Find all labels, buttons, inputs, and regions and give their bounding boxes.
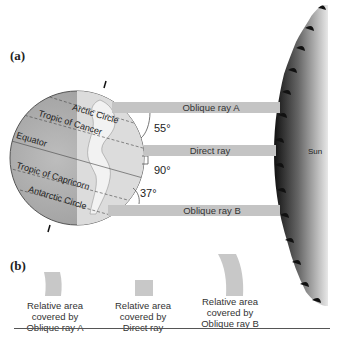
sun-label: Sun: [308, 147, 322, 156]
angle-90: 90°: [154, 164, 171, 176]
direct-ray-bar: Direct ray: [144, 145, 276, 156]
bottom-rule: [14, 328, 330, 329]
oblique-ray-b-label: Oblique ray B: [183, 205, 241, 216]
oblique-ray-b-bar: Oblique ray B: [108, 205, 280, 216]
oblique-ray-a-bar: Oblique ray A: [112, 102, 280, 113]
angle-37: 37°: [140, 187, 157, 199]
caption-oblique-ray-b: Relative area covered by Oblique ray B: [185, 296, 275, 329]
angle-55: 55°: [154, 122, 171, 134]
direct-ray-label: Direct ray: [190, 145, 231, 156]
oblique-ray-a-label: Oblique ray A: [182, 102, 239, 113]
